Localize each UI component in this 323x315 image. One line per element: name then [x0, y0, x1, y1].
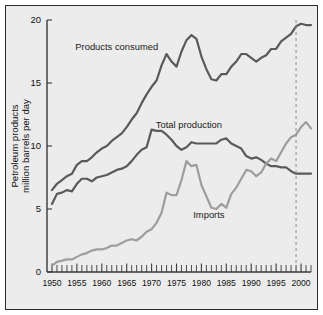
x-tick-label-1970: 1970 [142, 278, 161, 288]
x-tick-label-1955: 1955 [67, 278, 86, 288]
x-tick-label-1995: 1995 [267, 278, 286, 288]
y-tick-label-20: 20 [30, 14, 41, 25]
x-tick-label-1960: 1960 [92, 278, 111, 288]
x-tick-label-1950: 1950 [42, 278, 61, 288]
axis-titles-group: Petroleum productsmillion barrels per da… [9, 99, 31, 193]
y-tick-label-15: 15 [30, 77, 41, 88]
petroleum-line-chart: 0510152019501955196019651970197519801985… [0, 0, 323, 315]
y-axis-title-line1: Petroleum products [9, 104, 20, 187]
x-tick-label-1990: 1990 [242, 278, 261, 288]
x-tick-label-1965: 1965 [117, 278, 136, 288]
x-tick-label-1980: 1980 [192, 278, 211, 288]
x-tick-label-1975: 1975 [167, 278, 186, 288]
series-line-imports [52, 122, 311, 266]
series-group [52, 24, 311, 266]
x-tick-label-2000: 2000 [291, 278, 310, 288]
y-axis-title-line2: million barrels per day [20, 99, 31, 193]
chart-figure: 0510152019501955196019651970197519801985… [0, 0, 323, 315]
series-line-total-production [52, 130, 311, 204]
products-consumed-label: Products consumed [75, 41, 158, 52]
y-tick-label-5: 5 [36, 203, 41, 214]
y-tick-label-0: 0 [36, 266, 41, 277]
imports-label: Imports [193, 209, 225, 220]
total-production-label: Total production [156, 119, 222, 130]
y-tick-label-10: 10 [30, 140, 41, 151]
chart-plot-area: 0510152019501955196019651970197519801985… [0, 0, 323, 315]
axes-group: 0510152019501955196019651970197519801985… [30, 14, 311, 288]
x-tick-label-1985: 1985 [217, 278, 236, 288]
annotations-group: Products consumedTotal productionImports [75, 41, 225, 220]
